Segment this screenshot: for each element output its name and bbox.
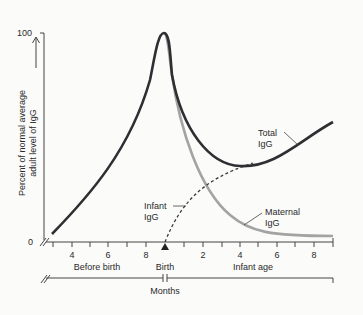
tick-label: 8	[143, 250, 148, 260]
birth-marker-icon	[161, 243, 169, 250]
infant-label: Infant	[144, 201, 167, 211]
infant-label-igg: IgG	[144, 212, 159, 222]
chart-svg: 100 0 Percent of normal average adult le…	[0, 0, 363, 315]
tick-label: 6	[105, 250, 110, 260]
tick-label: 6	[274, 250, 279, 260]
months-bracket	[41, 274, 333, 283]
tick-label: 4	[237, 250, 242, 260]
infant-igg-annotation: Infant IgG	[144, 201, 186, 222]
total-label-igg: IgG	[258, 139, 273, 149]
y-max-label: 100	[17, 28, 32, 38]
total-igg-curve	[52, 33, 333, 234]
tick-label: 8	[311, 250, 316, 260]
infant-age-label: Infant age	[233, 262, 273, 272]
before-birth-label: Before birth	[74, 262, 121, 272]
y-axis: 100 0 Percent of normal average adult le…	[17, 28, 49, 247]
y-min-label: 0	[28, 237, 33, 247]
total-igg-annotation: Total IgG	[258, 128, 298, 149]
months-label: Months	[150, 286, 180, 296]
y-axis-label-line2: adult level of IgG	[28, 109, 38, 177]
maternal-igg-curve	[164, 33, 333, 236]
total-label: Total	[258, 128, 277, 138]
maternal-igg-annotation: Maternal IgG	[244, 207, 300, 228]
tick-label: 4	[69, 250, 74, 260]
infant-igg-curve	[165, 163, 253, 242]
birth-label: Birth	[156, 262, 175, 272]
tick-label: 2	[200, 250, 205, 260]
y-axis-label-line1: Percent of normal average	[17, 90, 27, 196]
maternal-label: Maternal	[265, 207, 300, 217]
maternal-label-igg: IgG	[265, 218, 280, 228]
x-axis: 4 6 8 2 4 6 8 Before birth Birth Infant …	[46, 238, 333, 272]
igg-chart: 100 0 Percent of normal average adult le…	[0, 0, 363, 315]
